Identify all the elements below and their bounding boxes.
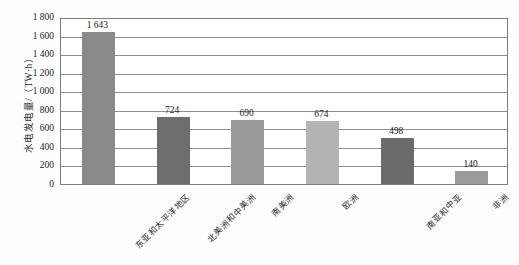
gridline <box>61 55 507 56</box>
bar <box>157 117 190 184</box>
bar-value-label: 140 <box>441 159 501 169</box>
bar <box>231 120 264 184</box>
y-axis-title: 水电发电量/（TW·h） <box>21 23 35 183</box>
bar-value-label: 690 <box>217 108 277 118</box>
bar <box>82 32 115 184</box>
hydropower-bar-chart: 水电发电量/（TW·h） 02004006008001 0001 2001 40… <box>0 0 519 265</box>
gridline <box>61 37 507 38</box>
bar <box>455 171 488 184</box>
x-axis-category-label: 欧洲 <box>340 190 362 212</box>
bar-value-label: 498 <box>366 126 426 136</box>
gridline <box>61 148 507 149</box>
bar <box>306 121 339 184</box>
gridline <box>61 111 507 112</box>
x-axis-category-label: 东亚和太平洋地区 <box>132 190 193 251</box>
gridline <box>61 92 507 93</box>
bar-value-label: 1 643 <box>67 20 127 30</box>
gridline <box>61 129 507 130</box>
y-axis-tick-label: 1 800 <box>4 12 54 22</box>
bar <box>381 138 414 184</box>
x-axis-category-label: 非洲 <box>489 190 511 212</box>
x-axis-category-label: 北美洲和中美洲 <box>204 190 258 244</box>
bar-value-label: 724 <box>142 105 202 115</box>
x-axis-category-label: 南亚和中亚 <box>422 190 463 231</box>
x-axis-category-label: 南美洲 <box>268 190 296 218</box>
bar-value-label: 674 <box>291 109 351 119</box>
gridline <box>61 74 507 75</box>
